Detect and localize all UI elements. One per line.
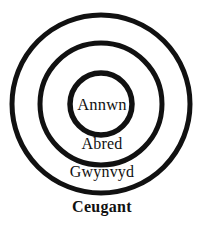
ring-label-ceugant: Ceugant xyxy=(0,199,204,215)
diagram-canvas: Annwn Abred Gwynvyd Ceugant xyxy=(0,0,204,225)
ring-label-gwynvyd: Gwynvyd xyxy=(0,164,204,180)
ring-label-annwn: Annwn xyxy=(0,97,204,114)
ring-label-abred: Abred xyxy=(0,136,204,152)
